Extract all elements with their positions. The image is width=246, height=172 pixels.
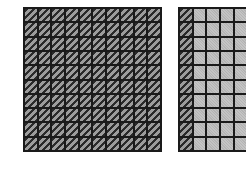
shaded-cell: [93, 138, 105, 150]
shaded-cell: [39, 38, 51, 50]
unshaded-cell: [235, 52, 246, 64]
unshaded-cell: [221, 66, 233, 78]
unshaded-cell: [207, 66, 219, 78]
shaded-cell: [180, 81, 192, 93]
shaded-cell: [66, 52, 78, 64]
hundred-grid-one-column-shaded: [178, 7, 246, 152]
shaded-cell: [107, 23, 119, 35]
shaded-cell: [180, 9, 192, 21]
shaded-cell: [107, 95, 119, 107]
unshaded-cell: [235, 81, 246, 93]
unshaded-cell: [235, 123, 246, 135]
shaded-cell: [93, 123, 105, 135]
unshaded-cell: [235, 23, 246, 35]
shaded-cell: [121, 81, 133, 93]
unshaded-cell: [194, 109, 206, 121]
shaded-cell: [180, 138, 192, 150]
unshaded-cell: [235, 66, 246, 78]
shaded-cell: [25, 66, 37, 78]
shaded-cell: [66, 9, 78, 21]
unshaded-cell: [235, 9, 246, 21]
shaded-cell: [148, 109, 160, 121]
shaded-cell: [93, 95, 105, 107]
shaded-cell: [39, 23, 51, 35]
shaded-cell: [135, 123, 147, 135]
shaded-cell: [135, 66, 147, 78]
unshaded-cell: [221, 81, 233, 93]
shaded-cell: [39, 9, 51, 21]
unshaded-cell: [194, 52, 206, 64]
shaded-cell: [80, 52, 92, 64]
shaded-cell: [52, 138, 64, 150]
shaded-cell: [121, 23, 133, 35]
unshaded-cell: [194, 23, 206, 35]
shaded-cell: [66, 95, 78, 107]
shaded-cell: [25, 123, 37, 135]
shaded-cell: [80, 95, 92, 107]
shaded-cell: [148, 138, 160, 150]
shaded-cell: [39, 138, 51, 150]
shaded-cell: [135, 95, 147, 107]
unshaded-cell: [207, 138, 219, 150]
shaded-cell: [121, 95, 133, 107]
shaded-cell: [25, 38, 37, 50]
shaded-cell: [121, 38, 133, 50]
shaded-cell: [180, 23, 192, 35]
shaded-cell: [107, 123, 119, 135]
shaded-cell: [121, 9, 133, 21]
shaded-cell: [93, 81, 105, 93]
shaded-cell: [121, 52, 133, 64]
unshaded-cell: [194, 9, 206, 21]
shaded-cell: [52, 123, 64, 135]
shaded-cell: [25, 138, 37, 150]
shaded-cell: [93, 38, 105, 50]
shaded-cell: [148, 38, 160, 50]
shaded-cell: [148, 66, 160, 78]
shaded-cell: [135, 81, 147, 93]
shaded-cell: [180, 52, 192, 64]
shaded-cell: [121, 123, 133, 135]
shaded-cell: [107, 138, 119, 150]
shaded-cell: [107, 52, 119, 64]
shaded-cell: [93, 23, 105, 35]
shaded-cell: [52, 66, 64, 78]
shaded-cell: [148, 123, 160, 135]
shaded-cell: [39, 109, 51, 121]
shaded-cell: [80, 9, 92, 21]
shaded-cell: [93, 52, 105, 64]
shaded-cell: [148, 81, 160, 93]
unshaded-cell: [207, 123, 219, 135]
shaded-cell: [39, 52, 51, 64]
shaded-cell: [52, 95, 64, 107]
shaded-cell: [180, 38, 192, 50]
unshaded-cell: [207, 109, 219, 121]
shaded-cell: [107, 81, 119, 93]
shaded-cell: [93, 9, 105, 21]
unshaded-cell: [207, 23, 219, 35]
unshaded-cell: [194, 95, 206, 107]
shaded-cell: [107, 66, 119, 78]
shaded-cell: [25, 81, 37, 93]
shaded-cell: [66, 66, 78, 78]
unshaded-cell: [221, 123, 233, 135]
shaded-cell: [148, 52, 160, 64]
shaded-cell: [25, 9, 37, 21]
shaded-cell: [80, 123, 92, 135]
unshaded-cell: [207, 95, 219, 107]
shaded-cell: [107, 38, 119, 50]
unshaded-cell: [221, 23, 233, 35]
shaded-cell: [121, 109, 133, 121]
shaded-cell: [52, 81, 64, 93]
unshaded-cell: [221, 95, 233, 107]
shaded-cell: [66, 81, 78, 93]
shaded-cell: [180, 123, 192, 135]
shaded-cell: [148, 9, 160, 21]
shaded-cell: [66, 23, 78, 35]
shaded-cell: [121, 138, 133, 150]
shaded-cell: [180, 95, 192, 107]
shaded-cell: [93, 66, 105, 78]
shaded-cell: [52, 109, 64, 121]
shaded-cell: [52, 9, 64, 21]
shaded-cell: [148, 23, 160, 35]
shaded-cell: [25, 109, 37, 121]
